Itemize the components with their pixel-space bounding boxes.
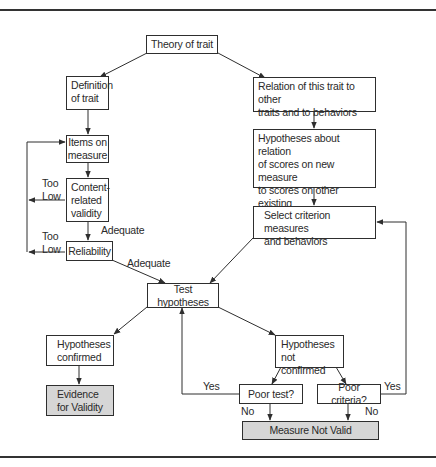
edge-notconf-poortest <box>272 367 281 384</box>
edge-test-not-confirmed <box>218 307 275 335</box>
edge-select-test <box>210 238 253 283</box>
edge-poorcriteria-yes-loop <box>377 222 406 394</box>
label-poor-criteria-no: No <box>365 405 378 418</box>
node-definition-of-trait: Definition of trait <box>66 76 109 110</box>
node-content-related-validity: Content- related validity <box>66 178 109 222</box>
node-relation-of-trait: Relation of this trait to other traits a… <box>253 77 376 112</box>
node-theory-of-trait: Theory of trait <box>146 35 218 54</box>
edge-theory-relation <box>218 53 265 78</box>
label-poor-test-no: No <box>241 405 254 418</box>
node-poor-criteria: Poor criteria? <box>317 384 381 404</box>
label-poor-criteria-yes: Yes <box>384 380 401 393</box>
node-hypotheses-about-relation: Hypotheses about relation of scores on n… <box>253 129 376 188</box>
label-content-too-low: Too Low <box>42 177 61 203</box>
node-measure-not-valid: Measure Not Valid <box>242 421 379 440</box>
node-select-criterion: Select criterion measures and behaviors <box>253 206 376 239</box>
node-hypotheses-not-confirmed: Hypotheses not confirmed <box>275 335 344 368</box>
label-content-adequate: Adequate <box>101 224 144 237</box>
node-evidence-for-validity: Evidence for Validity <box>46 385 114 416</box>
node-test-hypotheses: Test hypotheses <box>147 283 219 308</box>
label-reliability-too-low: Too Low <box>42 230 61 256</box>
node-reliability: Reliability <box>66 241 113 261</box>
label-poor-test-yes: Yes <box>203 380 220 393</box>
label-reliability-adequate: Adequate <box>127 257 170 270</box>
node-poor-test: Poor test? <box>239 384 303 404</box>
edge-test-confirmed <box>114 307 147 334</box>
node-items-on-measure: Items on measure <box>66 135 109 163</box>
edge-theory-definition <box>100 53 147 77</box>
node-hypotheses-confirmed: Hypotheses confirmed <box>46 335 114 366</box>
